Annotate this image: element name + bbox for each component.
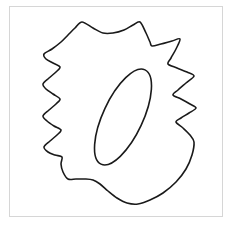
drawing-canvas [0, 0, 233, 229]
figure-root: Outline drawing of a spiked closed curve… [0, 0, 233, 229]
inner-tilted-ellipse-path [83, 61, 163, 172]
outer-spiked-contour-path [43, 22, 196, 204]
